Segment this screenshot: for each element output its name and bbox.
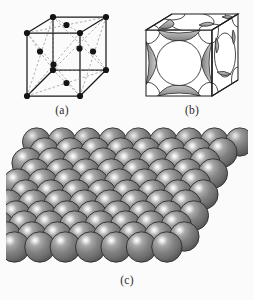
sphere-row [6, 232, 182, 262]
figure-root: .solid { stroke:#1a1a1a; stroke-width:1.… [0, 0, 254, 300]
fcc-hard-sphere-svg: .edge { stroke:#1f1f1f; stroke-width:1.0… [136, 4, 250, 104]
atom-sphere [152, 232, 182, 262]
panel-c-atom-aggregate: .sp { fill:url(#sph); stroke:#2d2d2d; st… [6, 124, 248, 272]
panel-b-hard-sphere-cell: .edge { stroke:#1f1f1f; stroke-width:1.0… [136, 4, 250, 104]
fcc-reduced-sphere-svg: .solid { stroke:#1a1a1a; stroke-width:1.… [6, 4, 124, 104]
panel-a-reduced-sphere-cell: .solid { stroke:#1a1a1a; stroke-width:1.… [6, 4, 124, 104]
caption-panel-b: (b) [130, 104, 254, 116]
caption-panel-a: (a) [0, 104, 124, 116]
face-diagonals-left [27, 17, 53, 96]
caption-panel-c: (c) [0, 274, 254, 286]
sphere-stack [6, 128, 248, 262]
fcc-aggregate-svg: .sp { fill:url(#sph); stroke:#2d2d2d; st… [6, 124, 248, 272]
face-diagonals-right [80, 17, 106, 96]
